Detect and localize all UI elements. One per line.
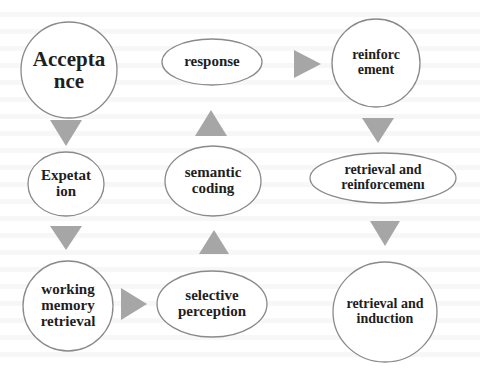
arrow-down-icon	[362, 118, 394, 143]
arrow-down-icon	[370, 221, 400, 246]
node-label-response: response	[162, 39, 262, 85]
arrow-down-icon	[50, 120, 82, 146]
node-label-retrieval-induction: retrieval and induction	[333, 262, 437, 362]
node-label-semantic-coding: semantic coding	[165, 146, 261, 216]
arrow-down-icon	[50, 226, 82, 250]
node-label-expetation: Expetat ion	[28, 152, 104, 216]
arrow-up-icon	[195, 110, 227, 136]
node-label-working-memory-retrieval: working memory retrieval	[23, 261, 113, 351]
arrow-right-icon	[294, 50, 321, 78]
node-label-acceptance: Accepta nce	[21, 22, 117, 118]
arrow-up-icon	[199, 230, 229, 254]
node-label-reinforcement: reinforc ement	[332, 19, 420, 107]
node-label-selective-perception: selective perception	[157, 271, 267, 337]
arrow-right-icon	[121, 288, 147, 320]
node-label-retrieval-reinforcement: retrieval and reinforcemenı	[310, 153, 456, 203]
